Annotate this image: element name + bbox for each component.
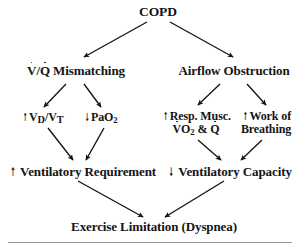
node-exercise-limitation: Exercise Limitation (Dyspnea) (71, 220, 237, 234)
pao2-sub: 2 (113, 115, 117, 125)
node-copd-label: COPD (139, 5, 177, 19)
edge-vq-to-pao2 (84, 84, 101, 107)
vo2-o: O (181, 122, 190, 136)
edge-vq-to-vdvt (44, 84, 66, 107)
work-of-breathing-line2: Breathing (241, 123, 291, 136)
node-work-of-breathing: ↑Work of Breathing (241, 110, 291, 136)
bottom-divider (8, 242, 292, 243)
increase-arrow-icon: ↑ (10, 166, 15, 179)
node-copd: COPD (139, 5, 177, 19)
node-ventilatory-requirement-label: Ventilatory Requirement (17, 164, 156, 179)
vd-vt-slash: /V (45, 110, 57, 124)
edge-pao2-to-ventreq (86, 128, 104, 160)
node-ventilatory-requirement: ↑ Ventilatory Requirement (8, 165, 156, 179)
node-ventilatory-capacity-label: Ventilatory Capacity (175, 164, 291, 179)
node-vd-vt: ↑VD/VT (20, 111, 63, 124)
edge-ventcap-to-exercise (165, 181, 224, 217)
vd-vt-sub-t: T (57, 114, 64, 125)
vo2-v-dot-symbol: V (173, 123, 182, 136)
edge-respmusc-to-ventcap (198, 140, 221, 160)
decrease-arrow-icon: ↓ (169, 166, 174, 179)
increase-arrow-icon: ↑ (163, 111, 168, 123)
decrease-arrow-icon: ↓ (85, 112, 90, 124)
node-exercise-limitation-label: Exercise Limitation (Dyspnea) (71, 220, 237, 234)
vo2-ampersand: & (195, 122, 211, 136)
resp-musc-line1: Resp. Musc. (170, 109, 231, 123)
node-vq-mismatching-label: Mismatching (50, 63, 125, 78)
edge-ventreq-to-exercise (78, 181, 143, 217)
edge-airflow-to-work (247, 84, 266, 105)
node-airflow-obstruction-label: Airflow Obstruction (178, 64, 289, 78)
edge-copd-to-airflow (170, 22, 233, 57)
v-dot-symbol: V (27, 64, 36, 78)
vd-vt-base: V (29, 110, 38, 124)
edge-airflow-to-respmusc (198, 84, 220, 105)
increase-arrow-icon: ↑ (243, 111, 248, 123)
node-resp-musc: ↑Resp. Musc. VO2 & Q (161, 110, 231, 136)
edge-copd-to-vq (84, 22, 147, 57)
node-pao2: ↓PaO2 (82, 111, 117, 124)
edge-work-to-ventcap (241, 140, 262, 160)
node-airflow-obstruction: Airflow Obstruction (178, 64, 289, 78)
pao2-base: PaO (91, 110, 113, 124)
node-ventilatory-capacity: ↓ Ventilatory Capacity (166, 165, 292, 179)
copd-flowchart: COPD V/Q Mismatching Airflow Obstruction… (0, 0, 303, 250)
q-dot-symbol: Q (210, 123, 219, 136)
node-vq-mismatching: V/Q Mismatching (27, 64, 125, 78)
increase-arrow-icon: ↑ (23, 112, 28, 124)
edge-vdvt-to-ventreq (48, 128, 73, 160)
q-dot-symbol: Q (40, 64, 50, 78)
work-of-breathing-line1: Work of (249, 109, 291, 123)
